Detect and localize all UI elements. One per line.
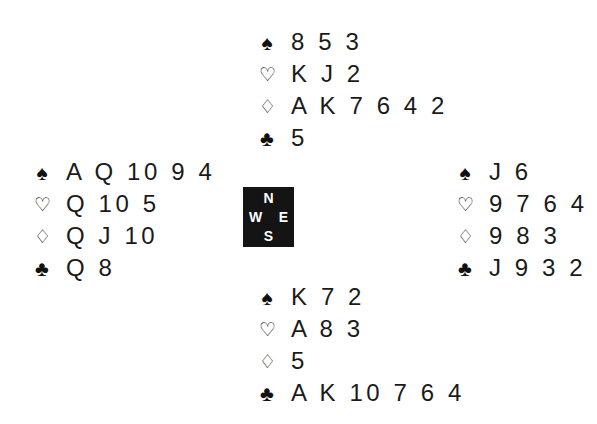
- spade-icon: ♠: [30, 162, 54, 183]
- west-clubs: Q 8: [66, 256, 115, 280]
- west-spades-row: ♠ A Q 10 9 4: [30, 156, 215, 188]
- east-spades: J 6: [489, 160, 532, 184]
- diamond-icon: ♢: [255, 352, 279, 371]
- south-spades-row: ♠ K 7 2: [255, 281, 365, 313]
- north-spades: 8 5 3: [291, 30, 362, 54]
- west-diamonds-row: ♢ Q J 10: [30, 220, 158, 252]
- north-spades-row: ♠ 8 5 3: [255, 26, 362, 58]
- east-spades-row: ♠ J 6: [453, 156, 532, 188]
- heart-icon: ♡: [255, 65, 279, 84]
- north-clubs: 5: [291, 126, 308, 150]
- west-diamonds: Q J 10: [66, 224, 158, 248]
- west-spades: A Q 10 9 4: [66, 160, 215, 184]
- west-hearts: Q 10 5: [66, 192, 160, 216]
- compass-east: E: [279, 210, 288, 224]
- south-diamonds-row: ♢ 5: [255, 345, 308, 377]
- east-clubs: J 9 3 2: [489, 256, 586, 280]
- heart-icon: ♡: [453, 195, 477, 214]
- compass-west: W: [249, 210, 262, 224]
- north-clubs-row: ♣ 5: [255, 122, 308, 154]
- diamond-icon: ♢: [453, 227, 477, 246]
- north-diamonds: A K 7 6 4 2: [291, 94, 448, 118]
- spade-icon: ♠: [255, 287, 279, 308]
- west-hearts-row: ♡ Q 10 5: [30, 188, 160, 220]
- east-hearts: 9 7 6 4: [489, 192, 588, 216]
- east-diamonds: 9 8 3: [489, 224, 560, 248]
- south-spades: K 7 2: [291, 285, 365, 309]
- club-icon: ♣: [453, 258, 477, 279]
- spade-icon: ♠: [255, 32, 279, 53]
- south-hearts-row: ♡ A 8 3: [255, 313, 364, 345]
- south-diamonds: 5: [291, 349, 308, 373]
- south-clubs: A K 10 7 6 4: [291, 381, 465, 405]
- north-hearts-row: ♡ K J 2: [255, 58, 364, 90]
- east-clubs-row: ♣ J 9 3 2: [453, 252, 586, 284]
- north-hearts: K J 2: [291, 62, 364, 86]
- east-diamonds-row: ♢ 9 8 3: [453, 220, 560, 252]
- south-clubs-row: ♣ A K 10 7 6 4: [255, 377, 465, 409]
- compass-south: S: [243, 229, 294, 243]
- compass-north: N: [243, 191, 294, 205]
- club-icon: ♣: [255, 128, 279, 149]
- diamond-icon: ♢: [30, 227, 54, 246]
- club-icon: ♣: [30, 258, 54, 279]
- east-hearts-row: ♡ 9 7 6 4: [453, 188, 588, 220]
- north-diamonds-row: ♢ A K 7 6 4 2: [255, 90, 448, 122]
- compass-box: N W E S: [243, 187, 294, 247]
- spade-icon: ♠: [453, 162, 477, 183]
- heart-icon: ♡: [30, 195, 54, 214]
- diamond-icon: ♢: [255, 97, 279, 116]
- heart-icon: ♡: [255, 320, 279, 339]
- west-clubs-row: ♣ Q 8: [30, 252, 115, 284]
- club-icon: ♣: [255, 383, 279, 404]
- south-hearts: A 8 3: [291, 317, 364, 341]
